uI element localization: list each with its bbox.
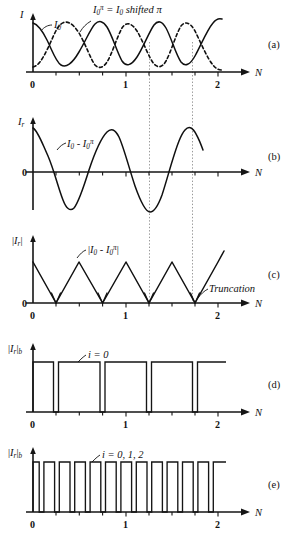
panel-c-truncation-label: Truncation <box>209 283 255 294</box>
panel-a-xtick-1: 1 <box>123 79 128 90</box>
panel-d-series-label: i = 0 <box>88 349 109 360</box>
panel-c-xtick-1: 1 <box>123 310 128 321</box>
panel-e-id: (e) <box>268 479 280 491</box>
panel-b-id: (b) <box>268 151 281 163</box>
panel-d-id: (d) <box>268 379 281 391</box>
panel-c-curve-rectified <box>33 251 224 303</box>
panel-a-curve-i0-pi <box>33 22 222 70</box>
panel-a: I0 I0π = I0 shifted π I N 0 1 2 (a) <box>19 4 280 90</box>
panel-e-series-label: i = 0, 1, 2 <box>102 449 144 460</box>
panel-e-xtick-0: 0 <box>30 519 35 530</box>
panel-d-y-axis-label: |Ir|b <box>8 343 23 356</box>
panel-c-y-axis-arrowhead <box>30 235 36 242</box>
panel-d: |Ir|b N 0 1 2 i = 0 (d) <box>8 343 281 430</box>
panel-c-curve-label: |I0 - I0π| <box>88 244 119 258</box>
panel-b-curve-label: I0 - I0π <box>66 138 94 152</box>
multi-panel-waveform-figure: I0 I0π = I0 shifted π I N 0 1 2 (a) <box>0 0 293 535</box>
panel-b-x-axis-label: N <box>254 167 263 178</box>
panel-c-x-axis-label: N <box>254 298 263 309</box>
panel-e-x-axis-arrowhead <box>241 509 250 516</box>
panel-d-y-axis-arrowhead <box>30 343 36 350</box>
panel-e-label-leader <box>92 455 100 462</box>
panel-a-i0pi-leader <box>80 21 91 32</box>
panel-a-x-axis-label: N <box>254 67 263 78</box>
panel-a-y-axis-arrowhead <box>30 13 36 20</box>
panel-c-id: (c) <box>268 269 280 281</box>
panel-e-xtick-2: 2 <box>215 519 220 530</box>
panel-c-y-axis-label: |Ir| <box>12 235 23 248</box>
panel-d-x-axis-arrowhead <box>241 409 250 416</box>
panel-c-x-axis-arrowhead <box>241 300 250 307</box>
panel-b-y-axis-arrowhead <box>30 117 36 124</box>
panel-b: Ir 0 N I0 - I0π (b) <box>17 116 281 212</box>
panel-c-xtick-2: 2 <box>215 310 220 321</box>
panel-c-label-leader <box>77 250 86 258</box>
panel-e-y-axis-arrowhead <box>30 447 36 454</box>
panel-e-xtick-1: 1 <box>123 519 128 530</box>
panel-d-xtick-2: 2 <box>215 419 220 430</box>
panel-c: |Ir| 0 N 0 1 2 |I0 - I0π| Truncation (c) <box>12 235 280 321</box>
panel-d-x-axis-label: N <box>254 407 263 418</box>
panel-a-y-axis-label: I <box>19 9 24 20</box>
panel-b-label-leader <box>57 143 66 150</box>
panel-d-xtick-0: 0 <box>30 419 35 430</box>
panel-b-x-axis-arrowhead <box>241 169 250 176</box>
figure-container: I0 I0π = I0 shifted π I N 0 1 2 (a) <box>0 0 293 535</box>
panel-d-label-leader <box>78 355 86 362</box>
panel-b-zero-label: 0 <box>22 167 27 178</box>
panel-a-xtick-2: 2 <box>215 79 220 90</box>
panel-a-xtick-0: 0 <box>30 79 35 90</box>
panel-a-i0-leader <box>41 25 52 31</box>
panel-b-y-axis-label: Ir <box>17 116 25 129</box>
panel-e-y-axis-label: |Ir|b <box>8 447 23 460</box>
panel-c-truncation-arrows <box>52 293 200 303</box>
panel-a-curve-i0 <box>33 19 222 66</box>
panel-d-xtick-1: 1 <box>123 419 128 430</box>
panel-d-square-wave <box>33 362 226 412</box>
panel-c-xtick-0: 0 <box>30 310 35 321</box>
panel-e-square-wave <box>33 462 226 512</box>
panel-e-x-axis-label: N <box>254 507 263 518</box>
panel-c-zero-label: 0 <box>22 298 27 309</box>
panel-b-curve-difference <box>33 128 203 212</box>
panel-a-id: (a) <box>268 39 280 51</box>
panel-a-label-i0-pi: I0π = I0 shifted π <box>92 4 162 18</box>
panel-a-x-axis-arrowhead <box>241 69 250 76</box>
panel-a-label-i0: I0 <box>53 19 62 32</box>
panel-e: |Ir|b N 0 1 2 i = 0, 1, 2 (e) <box>8 447 280 530</box>
